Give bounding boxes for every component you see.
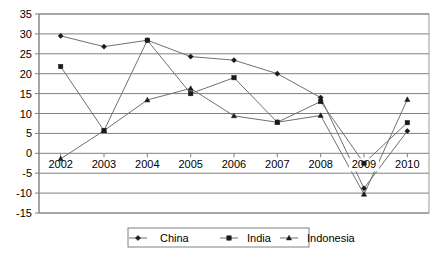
data-point-india-2008 [318, 99, 322, 103]
data-point-india-2006 [232, 75, 236, 79]
y-axis-tick-label: 5 [26, 127, 32, 139]
x-axis-tick-label: 2005 [178, 158, 202, 170]
y-axis-tick-label: 25 [20, 48, 32, 60]
y-axis-tick-label: 35 [20, 8, 32, 20]
y-axis-tick-label: 20 [20, 68, 32, 80]
y-axis-tick-label: -15 [16, 207, 32, 219]
y-axis-tick-label: 10 [20, 108, 32, 120]
data-point-india-2004 [145, 38, 149, 42]
y-axis-tick-label: -10 [16, 187, 32, 199]
x-axis-tick-label: 2006 [222, 158, 246, 170]
y-axis-tick-marks [35, 14, 39, 213]
data-point-india-2010 [405, 120, 409, 124]
x-axis-tick-label: 2007 [265, 158, 289, 170]
x-axis-tick-label: 2008 [308, 158, 332, 170]
y-axis-tick-label: -5 [22, 167, 32, 179]
y-axis-tick-labels: 35302520151050-5-10-15 [16, 8, 32, 219]
chart-canvas: 35302520151050-5-10-15 20022003200420052… [0, 0, 435, 256]
legend: ChinaIndiaIndonesia [128, 228, 356, 247]
y-axis-tick-label: 0 [26, 147, 32, 159]
legend-marker-india [227, 236, 231, 240]
legend-label-china: China [160, 232, 190, 244]
line-chart: 35302520151050-5-10-15 20022003200420052… [0, 0, 435, 256]
x-axis-tick-label: 2003 [92, 158, 116, 170]
legend-label-india: India [247, 232, 272, 244]
x-axis-tick-label: 2010 [395, 158, 419, 170]
data-point-india-2005 [188, 91, 192, 95]
legend-label-indonesia: Indonesia [307, 232, 356, 244]
x-axis-tick-label: 2004 [135, 158, 159, 170]
y-axis-tick-label: 30 [20, 28, 32, 40]
y-axis-tick-label: 15 [20, 88, 32, 100]
data-point-india-2009 [362, 161, 366, 165]
data-point-india-2002 [58, 64, 62, 68]
